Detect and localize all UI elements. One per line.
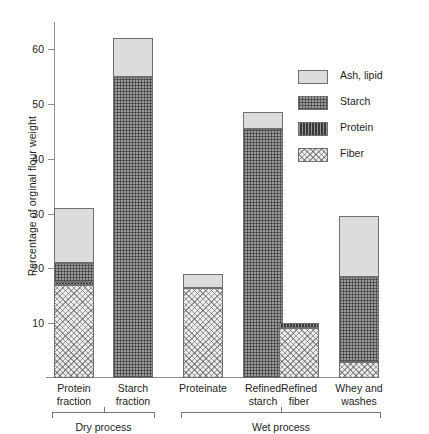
bar	[183, 274, 223, 378]
bar	[279, 323, 319, 378]
bar-segment-starch	[243, 129, 283, 378]
group-bracket	[52, 412, 155, 418]
y-axis-title: Percentage of orginal flour weight	[26, 76, 38, 316]
legend-label: Protein	[340, 121, 373, 133]
y-tick-label: 20	[32, 262, 44, 274]
x-axis-label-line: fraction	[89, 395, 177, 408]
bar-segment-ash	[243, 112, 283, 128]
bar-segment-ash	[54, 208, 94, 263]
legend-label: Ash, lipid	[340, 69, 383, 81]
legend-label: Fiber	[340, 147, 364, 159]
legend-swatch-fiber	[298, 148, 328, 162]
bar	[339, 216, 379, 378]
group-label: Wet process	[201, 421, 361, 433]
bar-segment-starch	[113, 77, 153, 378]
y-tick-label: 30	[32, 208, 44, 220]
group-bracket-stem	[281, 407, 282, 412]
bar-segment-protein	[54, 282, 94, 285]
bar-segment-ash	[183, 274, 223, 288]
group-label: Dry process	[24, 421, 184, 433]
y-tick: 50	[48, 104, 54, 105]
legend-swatch-starch	[298, 96, 328, 110]
legend-swatch-protein	[298, 122, 328, 136]
group-bracket-stem	[104, 407, 105, 412]
x-axis-label: Whey andwashes	[315, 382, 403, 407]
stacked-bar-chart: Percentage of orginal flour weight 10203…	[0, 0, 429, 434]
x-axis-label-line: Whey and	[315, 382, 403, 395]
x-axis-label-line: washes	[315, 395, 403, 408]
bar-segment-starch	[54, 263, 94, 282]
bar-segment-protein	[279, 323, 319, 327]
y-tick-label: 50	[32, 98, 44, 110]
bar-segment-ash	[113, 38, 153, 76]
legend-label: Starch	[340, 95, 370, 107]
bar-segment-fiber	[54, 285, 94, 378]
bar-segment-fiber	[279, 328, 319, 378]
bar	[243, 112, 283, 378]
bar-segment-fiber	[183, 288, 223, 378]
y-tick-label: 60	[32, 43, 44, 55]
y-tick: 60	[48, 49, 54, 50]
bar-segment-fiber	[339, 362, 379, 378]
bar	[113, 38, 153, 378]
y-tick: 40	[48, 159, 54, 160]
group-bracket	[181, 412, 381, 418]
bar-segment-starch	[339, 277, 379, 362]
legend-swatch-ash	[298, 70, 328, 84]
y-tick-label: 40	[32, 153, 44, 165]
y-tick-label: 10	[32, 317, 44, 329]
bar-segment-ash	[339, 216, 379, 276]
bar	[54, 208, 94, 378]
